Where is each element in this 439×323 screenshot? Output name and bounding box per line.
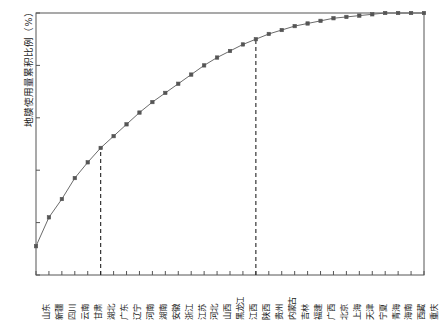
x-axis-tick-label: 陕西 — [259, 305, 271, 320]
x-axis-tick-label: 福建 — [311, 305, 323, 320]
x-axis-tick-label: 云南 — [78, 305, 90, 320]
x-axis-tick-label: 四川 — [65, 305, 77, 320]
x-axis-tick-label: 山东 — [39, 305, 51, 320]
x-axis-tick-label: 江西 — [246, 305, 258, 320]
x-axis-tick-label: 重庆 — [427, 305, 439, 320]
x-axis-tick-label: 江苏 — [195, 305, 207, 320]
x-axis-tick-label: 内蒙古 — [285, 297, 297, 320]
x-axis-tick-label: 海南 — [401, 305, 413, 320]
x-axis-tick-label: 安徽 — [169, 305, 181, 320]
x-axis-tick-label: 湖北 — [104, 305, 116, 320]
x-axis-tick-label: 河北 — [207, 305, 219, 320]
x-axis-tick-label: 吉林 — [298, 305, 310, 320]
x-axis-tick-label: 辽宁 — [130, 305, 142, 320]
x-axis-tick-label: 湖南 — [156, 305, 168, 320]
x-axis-tick-label: 广东 — [117, 305, 129, 320]
x-axis-tick-label: 黑龙江 — [233, 297, 245, 320]
x-axis-tick-label: 广西 — [324, 305, 336, 320]
x-axis-tick-label: 上海 — [350, 305, 362, 320]
x-axis-tick-label: 天津 — [363, 305, 375, 320]
x-axis-tick-label: 宁夏 — [376, 305, 388, 320]
x-axis-tick-label: 新疆 — [52, 305, 64, 320]
x-axis-tick-label: 北京 — [337, 305, 349, 320]
x-axis-tick-label: 浙江 — [182, 305, 194, 320]
x-axis-tick-label: 甘肃 — [91, 305, 103, 320]
x-axis-tick-label: 西藏 — [414, 305, 426, 320]
x-axis-tick-label: 青海 — [389, 305, 401, 320]
x-axis-tick-label: 贵州 — [272, 305, 284, 320]
x-axis-tick-label: 河南 — [143, 305, 155, 320]
x-axis-tick-label: 山西 — [220, 305, 232, 320]
